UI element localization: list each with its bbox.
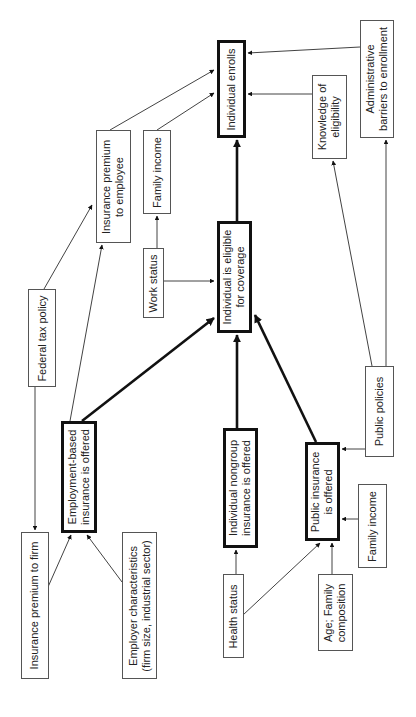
edge-employer-to-employment — [87, 535, 122, 582]
edge-employment-to-eligible — [82, 318, 214, 421]
label-line: (firm size, industrial sector) — [140, 540, 153, 671]
label-line: for coverage — [235, 230, 248, 325]
node-label: Insurance premium to employee — [101, 139, 127, 233]
node-family-income-bottom: Family income — [358, 484, 387, 568]
label-line: Individual is eligible — [222, 230, 235, 325]
label-line: Work status — [147, 254, 160, 312]
node-label: Health status — [227, 584, 240, 648]
node-individual-nongroup: Individual nongroup insurance is offered — [223, 428, 258, 548]
node-label: Employer characteristics (firm size, ind… — [127, 540, 153, 671]
node-federal-tax-policy: Federal tax policy — [28, 289, 56, 387]
node-health-status: Health status — [223, 574, 244, 658]
label-line: Administrative — [364, 27, 377, 131]
edge-health-to-public — [243, 543, 320, 615]
label-line: Insurance premium to firm — [29, 542, 42, 670]
label-line: Knowledge of — [317, 84, 330, 151]
label-line: Family income — [151, 137, 164, 208]
label-line: Age; Family — [323, 583, 336, 642]
label-line: Federal tax policy — [36, 295, 49, 381]
label-line: Insurance premium — [101, 139, 114, 233]
node-employer-characteristics: Employer characteristics (firm size, ind… — [122, 532, 157, 679]
label-line: Public insurance — [310, 451, 323, 532]
node-knowledge-eligibility: Knowledge of eligibility — [312, 75, 347, 159]
node-label: Knowledge of eligibility — [317, 84, 343, 151]
edge-premium-firm-to-employment — [48, 535, 71, 587]
edge-family-income-to-enrolls — [157, 93, 214, 130]
node-admin-barriers: Administrative barriers to enrollment — [360, 20, 394, 138]
node-label: Work status — [147, 254, 160, 312]
edge-premium-employee-to-enrolls — [110, 70, 214, 130]
node-label: Individual enrolls — [225, 48, 238, 130]
node-label: Age; Family composition — [323, 583, 349, 642]
label-line: barriers to enrollment — [377, 27, 390, 131]
node-premium-firm: Insurance premium to firm — [21, 532, 49, 679]
node-label: Employment-based insurance is offered — [66, 429, 92, 525]
node-label: Federal tax policy — [36, 295, 49, 381]
arrow-layer — [0, 0, 416, 717]
label-line: to employee — [114, 139, 127, 233]
label-line: Public policies — [373, 377, 386, 447]
label-line: composition — [336, 583, 349, 642]
label-line: eligibility — [330, 84, 343, 151]
node-label: Family income — [151, 137, 164, 208]
node-label: Individual nongroup insurance is offered — [228, 440, 254, 536]
label-line: Health status — [227, 584, 240, 648]
node-premium-employee: Insurance premium to employee — [96, 130, 131, 243]
node-public-policies: Public policies — [365, 366, 394, 457]
edge-public-to-eligible — [255, 315, 316, 442]
node-label: Public policies — [373, 377, 386, 447]
label-line: Individual nongroup — [228, 440, 241, 536]
edge-policies-to-knowledge — [333, 161, 372, 366]
node-label: Public insurance is offered — [310, 451, 336, 532]
node-label: Individual is eligible for coverage — [222, 230, 248, 325]
node-label: Family income — [366, 491, 379, 562]
label-line: Individual enrolls — [225, 48, 238, 130]
node-work-status: Work status — [143, 248, 164, 318]
node-individual-enrolls: Individual enrolls — [217, 40, 246, 138]
node-label: Insurance premium to firm — [29, 542, 42, 670]
node-individual-eligible: Individual is eligible for coverage — [217, 221, 252, 333]
edge-tax-to-premium-employee — [44, 205, 92, 289]
node-label: Administrative barriers to enrollment — [364, 27, 390, 131]
label-line: Employer characteristics — [127, 540, 140, 671]
node-age-family: Age; Family composition — [318, 574, 353, 651]
label-line: insurance is offered — [79, 429, 92, 525]
label-line: is offered — [323, 451, 336, 532]
edge-admin-to-enrolls — [248, 47, 360, 53]
node-public-insurance: Public insurance is offered — [305, 442, 340, 541]
label-line: insurance is offered — [241, 440, 254, 536]
label-line: Employment-based — [66, 429, 79, 525]
label-line: Family income — [366, 491, 379, 562]
node-family-income-top: Family income — [143, 130, 171, 214]
edge-employment-to-premium-employee — [70, 245, 102, 421]
node-employment-based: Employment-based insurance is offered — [61, 421, 97, 533]
